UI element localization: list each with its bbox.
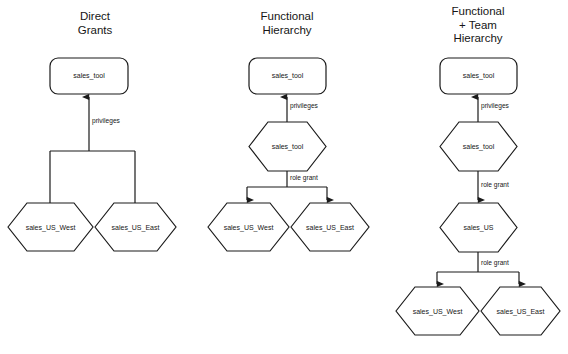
node-c3-sales-us-shape xyxy=(440,203,517,252)
edge-label-c2-privileges: privileges xyxy=(290,102,318,110)
node-c3-sales-tool-hex-shape xyxy=(440,122,517,171)
node-c3-sales-tool-rect-shape xyxy=(440,58,517,94)
edge-label-c2-role-grant: role grant xyxy=(290,174,318,182)
column-title-direct-grants: Direct Grants xyxy=(46,10,144,37)
node-c3-sales-us-west-shape xyxy=(396,287,479,335)
node-c1-sales-tool-shape xyxy=(50,58,128,94)
edge-label-c3-privileges: privileges xyxy=(481,102,509,110)
node-c1-sales-us-west-shape xyxy=(8,203,93,251)
diagram-graphics xyxy=(0,0,568,354)
node-c3-sales-us-east-shape xyxy=(481,287,560,335)
column-title-functional-hierarchy: Functional Hierarchy xyxy=(238,10,336,37)
column-title-functional-team-hierarchy: Functional + Team Hierarchy xyxy=(429,5,527,46)
node-c1-sales-us-east-shape xyxy=(95,203,176,251)
edge-label-c3-role-grant-1: role grant xyxy=(481,181,509,189)
edge-label-c1-privileges: privileges xyxy=(92,117,120,125)
edge-label-c3-role-grant-2: role grant xyxy=(481,259,509,267)
diagram-canvas: Direct Grants Functional Hierarchy Funct… xyxy=(0,0,568,354)
node-c2-sales-us-east-shape xyxy=(291,203,369,251)
node-c2-sales-tool-rect-shape xyxy=(249,58,326,94)
node-c2-sales-tool-hex-shape xyxy=(249,122,326,171)
node-c2-sales-us-west-shape xyxy=(208,203,289,251)
